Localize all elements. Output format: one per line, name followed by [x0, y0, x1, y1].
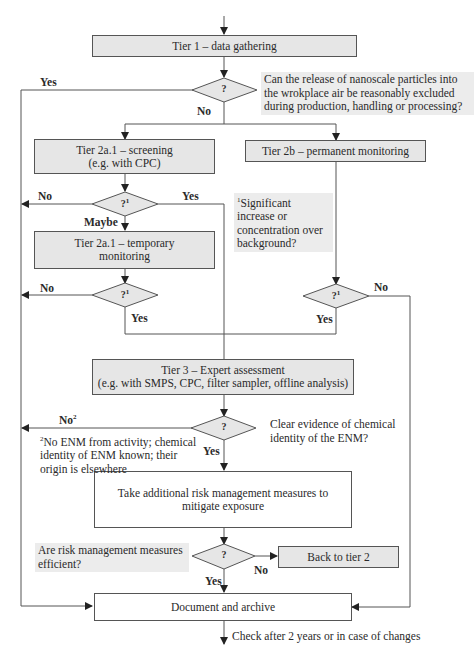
measures-line1: Take additional risk management measures… [118, 487, 328, 500]
q2-yes-label: Yes [182, 190, 199, 202]
document-archive-box: Document and archive [94, 593, 352, 621]
q1-no-label: No [197, 105, 211, 117]
q1-question: Can the release of nanoscale particles i… [261, 72, 474, 115]
q2-no-label: No [38, 190, 52, 202]
measures-line2: mitigate exposure [182, 500, 264, 513]
tier1-box: Tier 1 – data gathering [92, 35, 357, 57]
q2-symbol: ?1 [115, 197, 135, 209]
q1-symbol: ? [214, 83, 234, 94]
tier3-line2: (e.g. with SMPS, CPC, filter sampler, of… [98, 377, 348, 390]
back-to-tier2-label: Back to tier 2 [307, 551, 369, 564]
q4-yes-label: Yes [316, 313, 333, 325]
q1-yes-label: Yes [40, 76, 57, 88]
measures-box: Take additional risk management measures… [94, 471, 352, 528]
q3-symbol: ?1 [115, 288, 135, 300]
tier2a-screening-box: Tier 2a.1 – screening (e.g. with CPC) [34, 139, 215, 174]
tier2a-temporary-box: Tier 2a.1 – temporary monitoring [34, 231, 215, 269]
document-archive-label: Document and archive [171, 601, 275, 614]
q3-yes-label: Yes [131, 312, 148, 324]
tier2b-box: Tier 2b – permanent monitoring [245, 140, 426, 162]
q5-question: Clear evidence of chemical identity of t… [270, 418, 400, 445]
q5-symbol: ? [214, 421, 234, 432]
q6-no-label: No [254, 564, 268, 576]
tier2a-screening-line2: (e.g. with CPC) [88, 157, 160, 170]
q4-symbol: ?1 [326, 289, 346, 301]
back-to-tier2-box: Back to tier 2 [278, 546, 399, 568]
q3-no-label: No [40, 282, 54, 294]
tier2a-temporary-line1: Tier 2a.1 – temporary [75, 237, 175, 250]
tier1-label: Tier 1 – data gathering [172, 40, 276, 53]
q6-yes-label: Yes [205, 575, 222, 587]
q2-maybe-label: Maybe [84, 216, 118, 228]
check-note: Check after 2 years or in case of change… [232, 630, 472, 644]
footnote-1: 1Significant increase or concentration o… [234, 193, 333, 252]
tier2a-temporary-line2: monitoring [99, 250, 150, 263]
tier3-line1: Tier 3 – Expert assessment [161, 364, 285, 377]
q4-no-label: No [374, 281, 388, 293]
q6-question: Are risk management measures efficient? [35, 543, 189, 572]
tier2b-label: Tier 2b – permanent monitoring [262, 145, 409, 158]
q5-no-label: No2 [59, 413, 77, 426]
q5-yes-label: Yes [203, 445, 220, 457]
q6-symbol: ? [214, 549, 234, 560]
footnote-2: 2No ENM from activity; chemical identity… [40, 433, 200, 476]
tier2a-screening-line1: Tier 2a.1 – screening [76, 144, 173, 157]
tier3-box: Tier 3 – Expert assessment (e.g. with SM… [92, 359, 354, 395]
